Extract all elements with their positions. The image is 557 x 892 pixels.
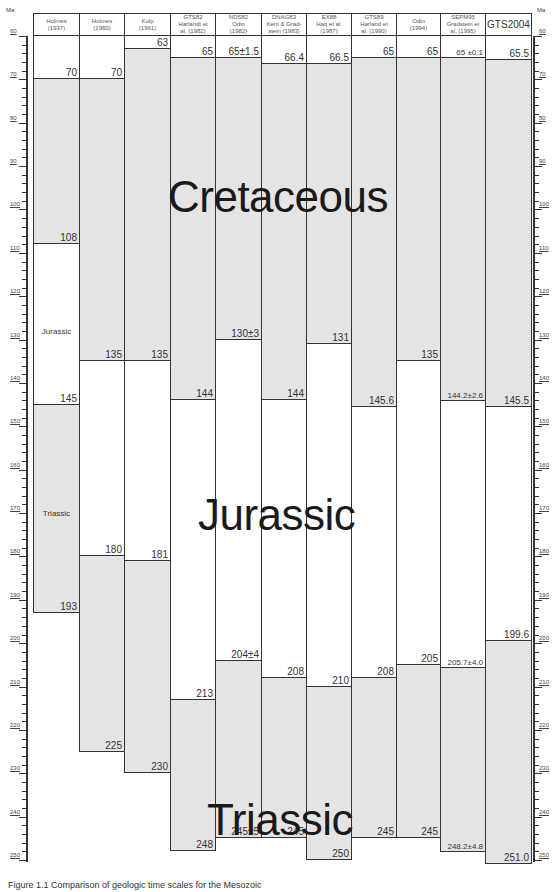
boundary-age-label: 135 (421, 349, 438, 360)
boundary-age-label: 193 (60, 601, 77, 612)
axis-tick-label: 140 (10, 375, 20, 381)
axis-tick (535, 617, 539, 618)
boundary-age-label: 131 (332, 332, 349, 343)
axis-tick-label: 60 (10, 28, 17, 34)
axis-tick-label: 130 (10, 332, 20, 338)
axis-tick-label: 210 (539, 679, 549, 685)
period-title-triassic: Triassic (207, 795, 353, 845)
axis-tick (22, 418, 26, 419)
axis-tick-label: 110 (10, 245, 20, 251)
boundary-age-label: 248.2±4.8 (447, 842, 483, 851)
axis-tick (22, 183, 26, 184)
age-interval: 144 (261, 64, 307, 401)
axis-tick (19, 513, 26, 514)
axis-tick (22, 314, 26, 315)
axis-tick-label: 170 (10, 505, 20, 511)
axis-tick (535, 626, 539, 627)
axis-tick (535, 366, 539, 367)
axis-tick (22, 149, 26, 150)
age-interval: 251.0 (485, 641, 532, 864)
axis-tick (535, 444, 539, 445)
axis-tick (535, 400, 539, 401)
axis-tick (22, 747, 26, 748)
axis-tick (22, 652, 26, 653)
axis-tick (22, 444, 26, 445)
age-interval: 144 (170, 58, 216, 401)
axis-tick (22, 157, 26, 158)
axis-tick (22, 288, 26, 289)
axis-tick-label: 110 (539, 245, 549, 251)
axis-tick (535, 270, 539, 271)
age-interval: 65 ±0.1 (440, 36, 486, 58)
boundary-age-label: 145 (60, 393, 77, 404)
axis-tick (535, 192, 539, 193)
axis-tick-label: 90 (539, 158, 546, 164)
boundary-age-label: 66.4 (285, 52, 304, 63)
boundary-age-label: 208 (377, 666, 394, 677)
axis-tick (22, 522, 26, 523)
axis-tick (19, 860, 26, 861)
age-interval: 230 (124, 561, 171, 774)
axis-tick (22, 565, 26, 566)
axis-tick (535, 695, 539, 696)
axis-tick (22, 140, 26, 141)
age-interval: 135 (79, 79, 125, 361)
axis-tick (22, 262, 26, 263)
axis-tick (535, 131, 539, 132)
boundary-age-label: 145.5 (504, 395, 529, 406)
axis-tick (535, 478, 539, 479)
axis-tick (22, 669, 26, 670)
axis-tick-label: 100 (539, 201, 549, 207)
age-interval: 248.2±4.8 (440, 668, 486, 852)
left-age-axis: Ma60708090100110120130140150160170180190… (4, 33, 24, 863)
axis-tick (22, 357, 26, 358)
age-interval: 108 (33, 79, 80, 244)
age-interval: 213 (170, 400, 216, 699)
age-interval: 70 (33, 36, 80, 79)
column-header: Odin(1994) (396, 13, 441, 36)
axis-tick (22, 591, 26, 592)
age-interval: 199.6 (485, 407, 532, 642)
boundary-age-label: 65±1.5 (228, 46, 259, 57)
axis-tick (535, 175, 539, 176)
axis-tick (535, 253, 542, 254)
axis-tick (22, 270, 26, 271)
axis-tick (19, 426, 26, 427)
axis-tick (535, 747, 539, 748)
axis-tick (535, 314, 539, 315)
axis-tick (22, 782, 26, 783)
column-header: Holmes(1960) (79, 13, 125, 36)
axis-tick (535, 643, 542, 644)
axis-tick (535, 860, 542, 861)
axis-tick (535, 556, 542, 557)
axis-tick-label: 190 (539, 592, 549, 598)
axis-tick-label: 200 (539, 635, 549, 641)
axis-tick (22, 574, 26, 575)
axis-tick (535, 166, 542, 167)
axis-tick (22, 374, 26, 375)
age-interval: 63 (124, 36, 171, 49)
axis-tick (19, 296, 26, 297)
axis-tick-label: 160 (10, 462, 20, 468)
axis-tick (22, 45, 26, 46)
age-interval: 135 (124, 49, 171, 361)
axis-tick (22, 825, 26, 826)
axis-tick (535, 183, 539, 184)
axis-tick (535, 357, 539, 358)
axis-tick (535, 773, 542, 774)
axis-tick (535, 236, 539, 237)
age-interval: 208 (351, 407, 397, 678)
axis-tick-label: 60 (539, 28, 546, 34)
axis-tick-label: 250 (10, 852, 20, 858)
axis-tick (19, 209, 26, 210)
axis-tick (19, 36, 26, 37)
axis-tick (19, 556, 26, 557)
axis-tick (535, 817, 542, 818)
column-period-label: Jurassic (33, 327, 80, 336)
boundary-age-label: 70 (66, 67, 77, 78)
axis-tick (19, 123, 26, 124)
axis-tick (535, 88, 539, 89)
axis-tick (19, 383, 26, 384)
axis-tick (22, 808, 26, 809)
boundary-age-label: 63 (157, 37, 168, 48)
